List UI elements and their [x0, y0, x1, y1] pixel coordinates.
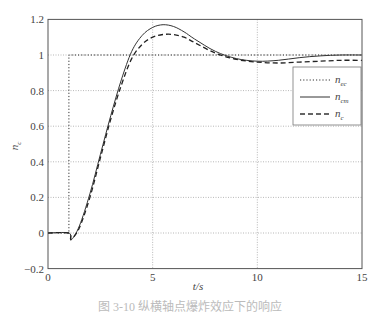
y-tick-label: 0.2 — [30, 191, 44, 203]
y-tick-label: 1.2 — [30, 13, 44, 25]
plot-frame — [48, 19, 362, 268]
y-tick-label: −0.2 — [24, 263, 44, 275]
y-tick-label: 0 — [39, 227, 45, 239]
y-axis-label: nc — [8, 141, 23, 151]
series-n-cm — [48, 25, 362, 241]
grid-lines — [48, 19, 362, 268]
axis-ticks: 051015−0.200.20.40.60.811.2 — [24, 13, 368, 283]
svg-text:nc: nc — [8, 141, 23, 151]
series-n-c — [48, 34, 362, 239]
y-tick-label: 0.8 — [30, 85, 44, 97]
legend-box — [293, 67, 361, 125]
figure-caption: 图 3-10 纵横轴点爆炸效应下的响应 — [0, 297, 380, 315]
x-tick-label: 0 — [45, 271, 51, 283]
y-tick-label: 0.6 — [30, 120, 44, 132]
x-tick-label: 10 — [252, 271, 264, 283]
y-tick-label: 0.4 — [30, 156, 44, 168]
x-axis-label: t/s — [193, 280, 203, 292]
legend: necncmnc — [293, 67, 361, 125]
data-series — [48, 25, 362, 241]
x-tick-label: 15 — [357, 271, 369, 283]
y-tick-label: 1 — [39, 49, 45, 61]
x-tick-label: 5 — [150, 271, 156, 283]
